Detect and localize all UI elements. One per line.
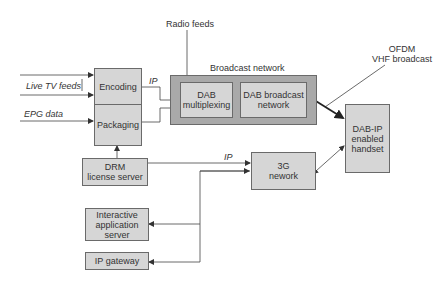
ofdm-vhf-broadcast-label: OFDM VHF broadcast xyxy=(372,44,432,64)
live-tv-feeds-label: Live TV feeds xyxy=(26,81,81,91)
interactive-application-server-box: Interactive application server xyxy=(85,208,149,241)
drm-license-server-box: DRM license server xyxy=(82,158,148,186)
dab-broadcast-network-box: DAB broadcast network xyxy=(240,82,307,118)
dab-multiplexing-box: DAB multiplexing xyxy=(180,82,233,118)
ip-label-drm: IP xyxy=(224,152,233,162)
encoding-box: Encoding xyxy=(94,68,142,105)
broadcast-network-label: Broadcast network xyxy=(210,63,285,73)
radio-feeds-label: Radio feeds xyxy=(166,19,214,29)
3g-network-box: 3G nework xyxy=(251,152,316,190)
epg-data-label: EPG data xyxy=(24,109,63,119)
packaging-box: Packaging xyxy=(94,104,142,146)
ip-gateway-box: IP gateway xyxy=(85,252,149,270)
ip-label-encoding: IP xyxy=(149,76,158,86)
dab-ip-handset-box: DAB-IP enabled handset xyxy=(345,104,390,173)
